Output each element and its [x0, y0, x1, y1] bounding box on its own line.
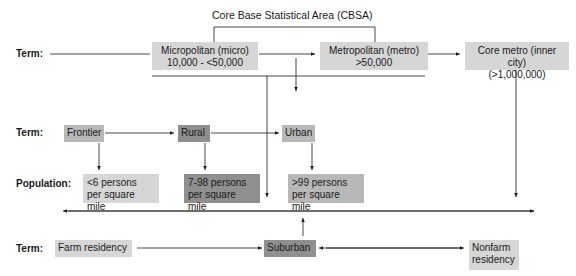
core-metro-label: Core metro (inner city)	[469, 45, 565, 69]
term-label-middle: Term:	[16, 127, 43, 138]
micropolitan-box: Micropolitan (micro) 10,000 - <50,000	[152, 42, 258, 70]
rural-population-line1: 7-98 persons	[188, 177, 256, 189]
frontier-population-line1: <6 persons	[87, 177, 155, 189]
suburban-box: Suburban	[264, 240, 316, 257]
urban-population-line2: per square mile	[292, 189, 360, 213]
metropolitan-range: >50,000	[324, 57, 424, 69]
frontier-population-line2: per square mile	[87, 189, 155, 213]
frontier-population-box: <6 persons per square mile	[83, 174, 159, 203]
urban-population-line1: >99 persons	[292, 177, 360, 189]
term-label-bottom: Term:	[16, 243, 43, 254]
nonfarm-residency-box: Nonfarm residency	[469, 240, 519, 270]
urban-population-box: >99 persons per square mile	[288, 174, 364, 203]
term-label-top: Term:	[16, 48, 43, 59]
metropolitan-label: Metropolitan (metro)	[324, 45, 424, 57]
rural-box: Rural	[178, 125, 210, 142]
urban-box: Urban	[282, 125, 315, 142]
population-label: Population:	[16, 178, 71, 189]
rural-population-line2: per square mile	[188, 189, 256, 213]
micropolitan-label: Micropolitan (micro)	[156, 45, 254, 57]
rural-population-box: 7-98 persons per square mile	[184, 174, 260, 203]
metropolitan-box: Metropolitan (metro) >50,000	[320, 42, 428, 70]
frontier-box: Frontier	[64, 125, 104, 142]
nonfarm-line2: residency	[472, 254, 516, 266]
nonfarm-line1: Nonfarm	[472, 242, 516, 254]
cbsa-title: Core Base Statistical Area (CBSA)	[212, 9, 372, 21]
micropolitan-range: 10,000 - <50,000	[156, 57, 254, 69]
core-metro-range: (>1,000,000)	[469, 69, 565, 81]
core-metro-box: Core metro (inner city) (>1,000,000)	[465, 42, 569, 70]
farm-residency-box: Farm residency	[55, 240, 132, 257]
